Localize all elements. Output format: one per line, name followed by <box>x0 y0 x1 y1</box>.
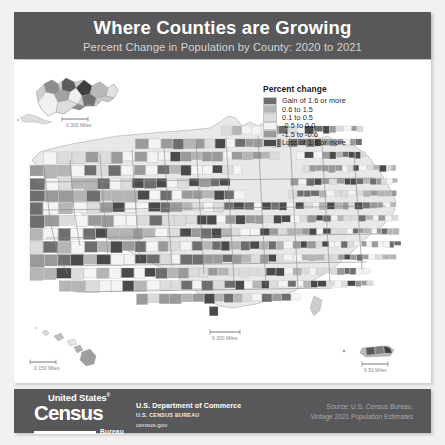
county-cell <box>121 178 132 189</box>
county-cell <box>123 241 135 250</box>
county-cell <box>111 281 122 292</box>
county-cell <box>161 139 172 148</box>
county-cell <box>278 228 287 234</box>
county-cell <box>392 191 396 196</box>
county-cell <box>232 152 242 160</box>
scale-label-puerto-rico: 0 50 Miles <box>364 367 387 373</box>
county-cell <box>356 191 363 196</box>
county-cell <box>59 281 71 291</box>
county-cell <box>114 215 126 226</box>
county-cell <box>180 255 192 265</box>
county-cell <box>377 202 382 207</box>
county-cell <box>345 178 350 184</box>
county-cell <box>108 228 120 239</box>
county-cell <box>363 202 370 208</box>
county-cell <box>369 255 375 260</box>
map-inset-puerto-rico <box>343 346 394 357</box>
county-cell <box>71 241 84 253</box>
county-cell <box>355 152 360 159</box>
county-cell <box>214 202 224 212</box>
county-cell <box>350 268 356 275</box>
county-cell <box>109 165 121 176</box>
county-cell <box>204 255 213 264</box>
county-cell <box>250 268 258 276</box>
county-cell <box>250 241 259 249</box>
county-cell <box>370 202 377 208</box>
county-cell <box>45 178 58 190</box>
county-cell <box>329 178 336 185</box>
county-cell <box>72 268 84 279</box>
county-cell <box>266 268 275 275</box>
county-cell <box>243 152 253 160</box>
county-cell <box>43 241 57 252</box>
county-cell <box>297 152 304 159</box>
county-cell <box>323 215 331 221</box>
county-cell <box>302 165 309 172</box>
legend-swatch-0 <box>263 97 277 105</box>
county-cell <box>331 268 337 275</box>
county-cell <box>385 215 391 221</box>
county-cell <box>304 202 312 208</box>
county-cell <box>302 268 309 274</box>
county-cell <box>327 281 335 287</box>
county-cell <box>348 241 354 247</box>
county-cell <box>192 202 203 210</box>
county-cell <box>316 215 322 220</box>
county-cell <box>172 191 182 200</box>
county-cell <box>136 202 148 211</box>
county-cell <box>137 294 148 305</box>
map-panel[interactable]: 0 300 Miles 0 150 Miles 0 50 Miles 0 300… <box>14 60 431 383</box>
county-cell <box>224 202 233 209</box>
county-cell <box>147 152 158 163</box>
county-cell <box>124 255 135 265</box>
county-cell <box>204 294 214 304</box>
county-cell <box>135 152 147 161</box>
county-cell <box>111 241 123 253</box>
county-cell <box>202 152 212 161</box>
county-cell <box>382 228 388 234</box>
county-cell <box>359 165 367 170</box>
legend-item-loss-1-6-or-more[interactable]: Loss of 1.6 or more <box>263 138 403 146</box>
county-cell <box>262 202 271 209</box>
county-cell <box>125 202 136 212</box>
county-cell <box>234 191 245 199</box>
county-cell <box>337 268 344 275</box>
county-cell <box>243 294 252 302</box>
county-cell <box>387 165 391 170</box>
county-cell <box>231 228 239 236</box>
county-cell <box>144 178 156 188</box>
county-cell <box>310 165 316 171</box>
county-cell <box>391 165 395 170</box>
county-cell <box>150 215 162 225</box>
county-cell <box>30 191 45 202</box>
county-cell <box>315 178 322 184</box>
county-cell <box>293 255 302 261</box>
county-cell <box>262 152 269 159</box>
county-cell <box>184 139 195 149</box>
county-cell <box>30 255 44 268</box>
county-cell <box>72 152 85 164</box>
county-cell <box>193 281 202 289</box>
county-cell <box>43 268 56 280</box>
county-cell <box>30 228 43 240</box>
county-cell <box>253 152 262 159</box>
county-cell <box>284 255 293 261</box>
county-cell <box>58 241 71 253</box>
county-cell <box>30 165 43 176</box>
county-cell <box>59 215 73 225</box>
county-cell <box>378 191 384 197</box>
county-cell <box>317 228 323 234</box>
county-cell <box>282 215 291 222</box>
footer-website[interactable]: census.gov <box>136 421 241 428</box>
county-cell <box>209 307 218 316</box>
county-cell <box>73 202 87 212</box>
county-cell <box>171 202 182 211</box>
county-cell <box>296 281 303 287</box>
county-cell <box>367 241 372 246</box>
county-cell <box>390 241 394 247</box>
county-cell <box>239 268 249 277</box>
county-cell <box>245 281 253 289</box>
county-cell <box>331 255 338 261</box>
county-cell <box>351 255 357 260</box>
county-cell <box>262 294 272 302</box>
